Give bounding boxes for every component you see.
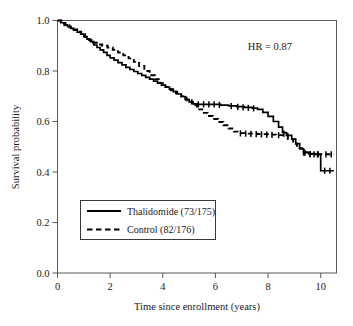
x-tick-label-0: 0 — [55, 281, 60, 292]
figure-background — [0, 0, 353, 326]
y-axis-title: Survival probability — [10, 104, 21, 189]
x-axis-title: Time since enrollment (years) — [134, 301, 260, 313]
plot-area: 0246810 0.00.20.40.60.81.0 HR = 0.87 Tim… — [0, 0, 353, 326]
legend[interactable]: Thalidomide (73/175) Control (82/176) — [81, 201, 216, 240]
y-tick-label-1.0: 1.0 — [36, 15, 49, 26]
y-tick-label-0.6: 0.6 — [36, 116, 49, 127]
y-tick-label-0.8: 0.8 — [36, 66, 49, 77]
hazard-ratio-annotation: HR = 0.87 — [248, 41, 292, 52]
survival-curve-figure: 0246810 0.00.20.40.60.81.0 HR = 0.87 Tim… — [0, 0, 353, 326]
x-tick-label-6: 6 — [213, 281, 218, 292]
x-tick-label-2: 2 — [108, 281, 113, 292]
y-tick-label-0.0: 0.0 — [36, 268, 49, 279]
y-tick-label-0.4: 0.4 — [36, 167, 50, 178]
x-tick-label-4: 4 — [160, 281, 166, 292]
x-tick-label-10: 10 — [315, 281, 326, 292]
legend-label-thalidomide: Thalidomide (73/175) — [127, 206, 215, 218]
y-tick-label-0.2: 0.2 — [36, 217, 49, 228]
x-tick-label-8: 8 — [265, 281, 270, 292]
legend-label-control: Control (82/176) — [127, 224, 195, 236]
